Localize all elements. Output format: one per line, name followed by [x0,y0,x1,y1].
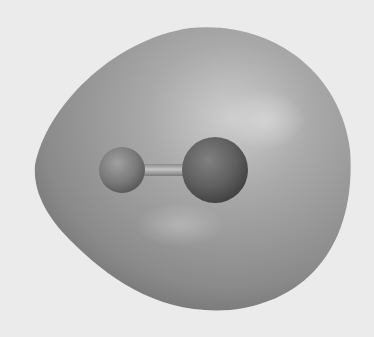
molecule-scene: diatomic molecule with enclosing molecul… [0,0,374,337]
small-atom [99,147,145,193]
large-atom [182,137,248,203]
molecule-render [0,0,374,337]
surface-highlight [225,90,305,150]
surface-highlight-lower [135,203,225,247]
